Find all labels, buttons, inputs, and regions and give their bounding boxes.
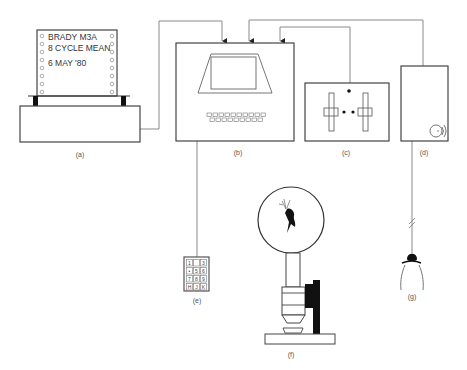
- objective-housing: [282, 287, 305, 315]
- microscope-f: (f): [258, 187, 335, 359]
- key-label: 6: [202, 268, 205, 274]
- key-label: 3: [202, 260, 205, 266]
- key-label: 5: [195, 268, 198, 274]
- printout-line-3: 6 MAY '80: [48, 58, 86, 68]
- computer-terminal-b: (b): [176, 43, 294, 157]
- label-b: (b): [234, 149, 243, 157]
- key-label: 8: [195, 276, 198, 282]
- key-label: H: [188, 284, 192, 290]
- paper-post-right: [121, 96, 126, 106]
- indicator-dot-2: [351, 110, 354, 113]
- microscope-column: [313, 280, 320, 335]
- indicator-dot-top: [347, 89, 351, 93]
- sound-unit-d: (d): [401, 66, 448, 157]
- key-label: •: [189, 268, 191, 274]
- probe-head: [407, 254, 417, 262]
- bottle-right: [419, 265, 423, 290]
- label-c: (c): [342, 149, 350, 157]
- panel-body: [305, 83, 389, 141]
- label-a: (a): [76, 151, 85, 159]
- microphone-probe-g: (g): [401, 254, 424, 301]
- microscope-base: [265, 334, 335, 344]
- paper-post-left: [33, 96, 38, 106]
- printout-line-1: BRADY M3A: [48, 32, 97, 42]
- apparatus-diagram: BRADY M3A 8 CYCLE MEAN 6 MAY '80 (a) (b): [0, 0, 467, 370]
- objective-lens: [282, 315, 305, 323]
- key-label: 7: [188, 276, 191, 282]
- keypad-keys[interactable]: 1 3 • 5 6 7 8 9 H J K: [187, 260, 207, 291]
- specimen-dish: [283, 328, 303, 333]
- printer-base: [20, 106, 140, 142]
- label-e: (e): [193, 297, 202, 305]
- printout-line-2: 8 CYCLE MEAN: [48, 43, 110, 53]
- bottle-left: [401, 265, 405, 290]
- focus-knob[interactable]: [305, 284, 313, 308]
- key-label: 1: [188, 260, 191, 266]
- key-label: 9: [202, 276, 205, 282]
- microscope-tube: [286, 253, 300, 287]
- keypad-e: 1 3 • 5 6 7 8 9 H J K (e): [184, 257, 209, 305]
- label-d: (d): [420, 149, 429, 157]
- control-panel-c: (c): [305, 83, 389, 157]
- indicator-dot-1: [342, 110, 345, 113]
- label-g: (g): [408, 293, 417, 301]
- printer-a: BRADY M3A 8 CYCLE MEAN 6 MAY '80 (a): [20, 30, 140, 159]
- label-f: (f): [288, 351, 295, 359]
- terminal-body: [176, 43, 294, 141]
- sound-unit-body: [401, 66, 448, 141]
